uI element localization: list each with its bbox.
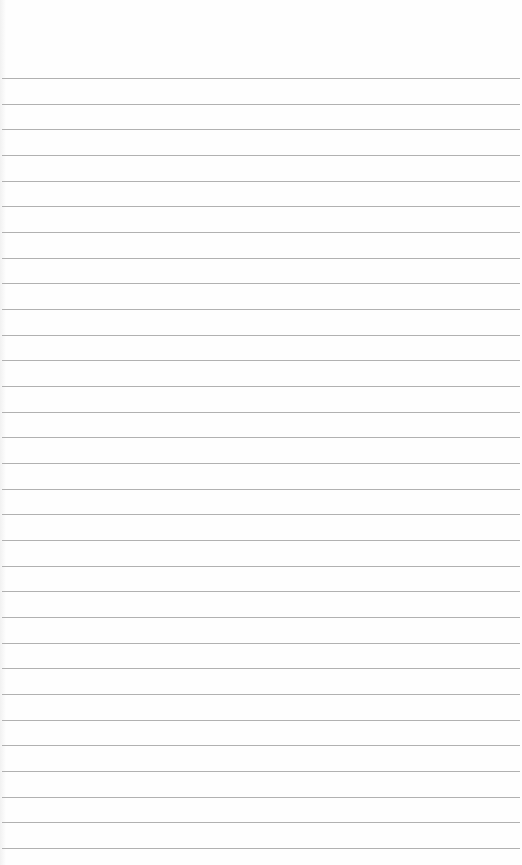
ruled-line: [2, 104, 520, 105]
ruled-line: [2, 129, 520, 130]
ruled-line: [2, 489, 520, 490]
ruled-line: [2, 540, 520, 541]
ruled-line: [2, 463, 520, 464]
ruled-line: [2, 155, 520, 156]
ruled-line: [2, 617, 520, 618]
ruled-line: [2, 181, 520, 182]
ruled-line: [2, 566, 520, 567]
ruled-line: [2, 848, 520, 849]
ruled-line: [2, 206, 520, 207]
ruled-line: [2, 668, 520, 669]
ruled-line: [2, 745, 520, 746]
ruled-line: [2, 643, 520, 644]
ruled-line: [2, 694, 520, 695]
ruled-line: [2, 720, 520, 721]
ruled-line: [2, 309, 520, 310]
ruled-line: [2, 822, 520, 823]
ruled-line: [2, 232, 520, 233]
ruled-line: [2, 360, 520, 361]
lined-paper: [0, 0, 522, 865]
ruled-line: [2, 514, 520, 515]
ruled-line: [2, 797, 520, 798]
ruled-line: [2, 258, 520, 259]
ruled-line: [2, 412, 520, 413]
ruled-line: [2, 283, 520, 284]
ruled-line: [2, 335, 520, 336]
ruled-line: [2, 771, 520, 772]
ruled-line: [2, 437, 520, 438]
ruled-line: [2, 591, 520, 592]
ruled-line: [2, 386, 520, 387]
ruled-line: [2, 78, 520, 79]
